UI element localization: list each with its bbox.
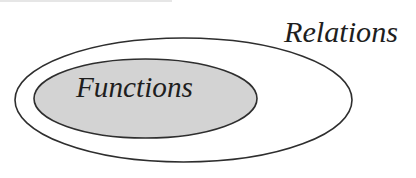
euler-diagram: Functions Relations — [0, 0, 416, 178]
relations-label: Relations — [283, 16, 398, 48]
functions-label: Functions — [75, 71, 193, 103]
